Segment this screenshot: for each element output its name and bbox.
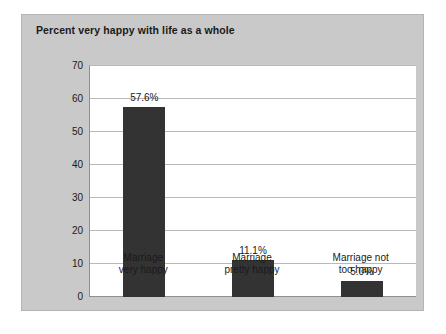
y-tick-label-0: 0 bbox=[41, 291, 83, 302]
x-category-label: Marriagevery happy bbox=[83, 252, 203, 276]
x-category-label: Marriagepretty happy bbox=[192, 252, 312, 276]
y-axis: 010203040506070 bbox=[37, 65, 83, 296]
x-category-label-line: Marriage bbox=[192, 252, 312, 264]
bar-value-label: 57.6% bbox=[99, 92, 189, 103]
x-category-label-line: very happy bbox=[83, 264, 203, 276]
x-category-label-line: too happy bbox=[301, 264, 421, 276]
chart-panel: Percent very happy with life as a whole … bbox=[21, 14, 424, 311]
chart-figure: Percent very happy with life as a whole … bbox=[0, 0, 446, 334]
x-category-label-line: pretty happy bbox=[192, 264, 312, 276]
x-category-label-line: Marriage bbox=[83, 252, 203, 264]
y-tick-label-50: 50 bbox=[41, 126, 83, 137]
y-tick-label-70: 70 bbox=[41, 60, 83, 71]
y-tick-label-40: 40 bbox=[41, 159, 83, 170]
x-category-label: Marriage nottoo happy bbox=[301, 252, 421, 276]
y-tick-label-20: 20 bbox=[41, 225, 83, 236]
gridline-70 bbox=[90, 65, 416, 66]
y-tick-label-60: 60 bbox=[41, 93, 83, 104]
y-tick-label-10: 10 bbox=[41, 258, 83, 269]
bar[interactable] bbox=[341, 281, 383, 298]
y-tick-label-30: 30 bbox=[41, 192, 83, 203]
x-category-label-line: Marriage not bbox=[301, 252, 421, 264]
chart-title: Percent very happy with life as a whole bbox=[36, 24, 235, 36]
